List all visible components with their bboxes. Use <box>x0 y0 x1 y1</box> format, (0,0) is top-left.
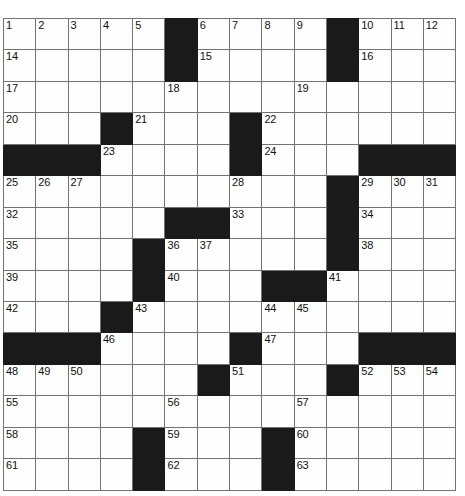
crossword-cell[interactable] <box>294 207 326 238</box>
crossword-cell[interactable]: 9 <box>294 19 326 50</box>
crossword-cell[interactable]: 39 <box>4 270 36 301</box>
crossword-cell[interactable] <box>36 459 68 490</box>
crossword-cell[interactable] <box>68 207 100 238</box>
crossword-cell[interactable]: 51 <box>230 364 262 395</box>
crossword-cell[interactable] <box>391 301 423 332</box>
crossword-cell[interactable] <box>230 50 262 81</box>
crossword-cell[interactable] <box>391 459 423 490</box>
crossword-cell[interactable]: 36 <box>165 239 197 270</box>
crossword-cell[interactable] <box>36 207 68 238</box>
crossword-cell[interactable] <box>423 270 455 301</box>
crossword-cell[interactable]: 62 <box>165 459 197 490</box>
crossword-cell[interactable] <box>197 333 229 364</box>
crossword-cell[interactable] <box>36 50 68 81</box>
crossword-cell[interactable] <box>326 113 358 144</box>
crossword-cell[interactable]: 32 <box>4 207 36 238</box>
crossword-cell[interactable] <box>36 270 68 301</box>
crossword-cell[interactable]: 28 <box>230 176 262 207</box>
crossword-cell[interactable]: 5 <box>133 19 165 50</box>
crossword-cell[interactable]: 22 <box>262 113 294 144</box>
crossword-cell[interactable]: 4 <box>100 19 132 50</box>
crossword-cell[interactable] <box>423 396 455 427</box>
crossword-cell[interactable] <box>326 81 358 112</box>
crossword-cell[interactable]: 52 <box>359 364 391 395</box>
crossword-cell[interactable]: 47 <box>262 333 294 364</box>
crossword-cell[interactable] <box>230 239 262 270</box>
crossword-cell[interactable]: 25 <box>4 176 36 207</box>
crossword-cell[interactable]: 20 <box>4 113 36 144</box>
crossword-cell[interactable] <box>294 144 326 175</box>
crossword-cell[interactable] <box>423 239 455 270</box>
crossword-cell[interactable] <box>100 459 132 490</box>
crossword-cell[interactable] <box>197 270 229 301</box>
crossword-cell[interactable] <box>423 81 455 112</box>
crossword-cell[interactable] <box>133 396 165 427</box>
crossword-cell[interactable] <box>359 427 391 458</box>
crossword-cell[interactable]: 7 <box>230 19 262 50</box>
crossword-cell[interactable]: 2 <box>36 19 68 50</box>
crossword-cell[interactable] <box>100 427 132 458</box>
crossword-cell[interactable] <box>68 427 100 458</box>
crossword-cell[interactable] <box>423 207 455 238</box>
crossword-cell[interactable] <box>391 239 423 270</box>
crossword-cell[interactable] <box>423 427 455 458</box>
crossword-cell[interactable] <box>423 113 455 144</box>
crossword-cell[interactable] <box>133 207 165 238</box>
crossword-cell[interactable]: 19 <box>294 81 326 112</box>
crossword-cell[interactable] <box>391 270 423 301</box>
crossword-cell[interactable]: 43 <box>133 301 165 332</box>
crossword-cell[interactable]: 24 <box>262 144 294 175</box>
crossword-cell[interactable]: 49 <box>36 364 68 395</box>
crossword-cell[interactable] <box>36 81 68 112</box>
crossword-cell[interactable] <box>68 113 100 144</box>
crossword-cell[interactable]: 34 <box>359 207 391 238</box>
crossword-cell[interactable] <box>230 301 262 332</box>
crossword-cell[interactable]: 37 <box>197 239 229 270</box>
crossword-cell[interactable]: 35 <box>4 239 36 270</box>
crossword-cell[interactable] <box>294 176 326 207</box>
crossword-cell[interactable] <box>100 207 132 238</box>
crossword-cell[interactable] <box>197 396 229 427</box>
crossword-cell[interactable] <box>262 364 294 395</box>
crossword-cell[interactable] <box>326 333 358 364</box>
crossword-cell[interactable] <box>100 50 132 81</box>
crossword-cell[interactable]: 6 <box>197 19 229 50</box>
crossword-cell[interactable] <box>100 239 132 270</box>
crossword-cell[interactable] <box>133 364 165 395</box>
crossword-cell[interactable]: 45 <box>294 301 326 332</box>
crossword-cell[interactable]: 57 <box>294 396 326 427</box>
crossword-cell[interactable] <box>68 270 100 301</box>
crossword-cell[interactable] <box>68 239 100 270</box>
crossword-cell[interactable] <box>326 144 358 175</box>
crossword-cell[interactable] <box>100 396 132 427</box>
crossword-cell[interactable]: 14 <box>4 50 36 81</box>
crossword-cell[interactable] <box>230 427 262 458</box>
crossword-cell[interactable] <box>391 81 423 112</box>
crossword-cell[interactable] <box>359 81 391 112</box>
crossword-cell[interactable] <box>326 396 358 427</box>
crossword-cell[interactable]: 1 <box>4 19 36 50</box>
crossword-cell[interactable]: 18 <box>165 81 197 112</box>
crossword-cell[interactable] <box>262 239 294 270</box>
crossword-cell[interactable] <box>165 364 197 395</box>
crossword-cell[interactable]: 60 <box>294 427 326 458</box>
crossword-cell[interactable]: 10 <box>359 19 391 50</box>
crossword-cell[interactable] <box>165 301 197 332</box>
crossword-cell[interactable]: 8 <box>262 19 294 50</box>
crossword-cell[interactable]: 61 <box>4 459 36 490</box>
crossword-cell[interactable] <box>197 176 229 207</box>
crossword-cell[interactable] <box>36 396 68 427</box>
crossword-cell[interactable]: 26 <box>36 176 68 207</box>
crossword-cell[interactable] <box>197 81 229 112</box>
crossword-cell[interactable]: 15 <box>197 50 229 81</box>
crossword-cell[interactable] <box>133 333 165 364</box>
crossword-cell[interactable]: 42 <box>4 301 36 332</box>
crossword-cell[interactable]: 63 <box>294 459 326 490</box>
crossword-cell[interactable] <box>133 81 165 112</box>
crossword-cell[interactable] <box>359 396 391 427</box>
crossword-cell[interactable] <box>230 459 262 490</box>
crossword-cell[interactable] <box>359 270 391 301</box>
crossword-cell[interactable]: 33 <box>230 207 262 238</box>
crossword-cell[interactable] <box>100 81 132 112</box>
crossword-cell[interactable] <box>36 239 68 270</box>
